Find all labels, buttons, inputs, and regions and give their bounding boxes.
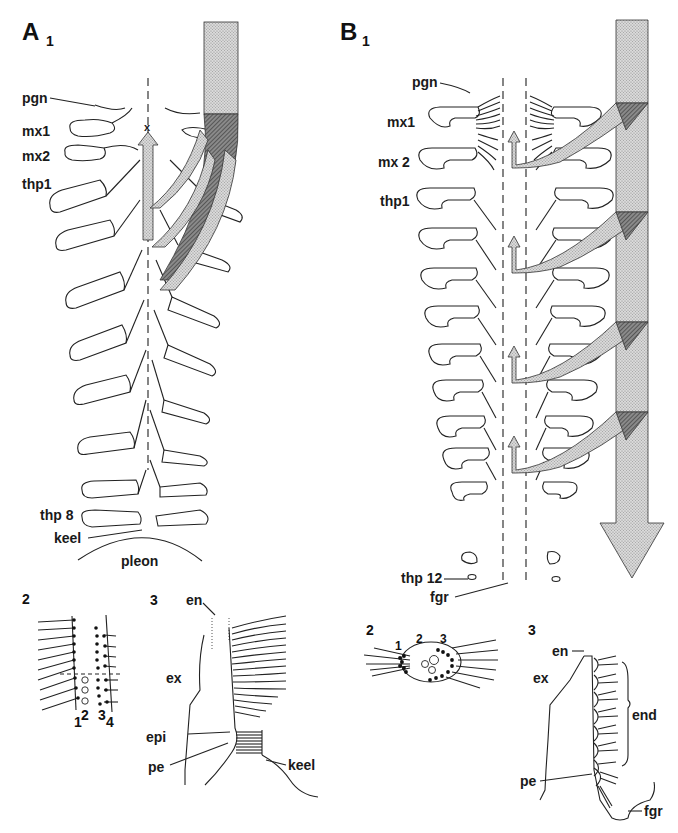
panel-b1: B 1 (340, 18, 664, 605)
a3-label-keel: keel (288, 757, 315, 773)
a3-epi-leader (188, 732, 230, 734)
panel-a3: 3 en (146, 592, 318, 797)
a2-dots (72, 618, 109, 706)
a3-ex-outline (185, 635, 204, 785)
b2-group-1: 1 (395, 639, 402, 653)
a1-label-pgn: pgn (22, 90, 48, 106)
panel-a2: 2 (22, 591, 122, 730)
b2-group-2: 2 (416, 632, 423, 646)
a2-setae-left (38, 615, 122, 712)
a1-label-thp1: thp1 (22, 176, 52, 192)
a1-label-mx1: mx1 (22, 123, 50, 139)
panel-a-letter: A (22, 18, 39, 45)
a1-label-thp8: thp 8 (40, 507, 74, 523)
panel-a-subscript: 1 (46, 33, 54, 49)
b1-label-thp1: thp1 (380, 193, 410, 209)
a1-up-arrow (138, 132, 158, 240)
b1-limbs-left (417, 107, 489, 580)
b3-end-bracket (622, 662, 630, 766)
b1-fgr-leader (455, 583, 508, 597)
a3-pe-leader (170, 743, 228, 765)
a3-label-epi: epi (146, 729, 166, 745)
a3-keel-comb (236, 730, 262, 755)
b2-number: 2 (366, 622, 374, 638)
a2-row-2: 2 (81, 707, 89, 723)
a3-number: 3 (150, 592, 158, 608)
b3-label-pe: pe (520, 773, 537, 789)
a1-x-marker: x (144, 121, 151, 133)
panel-a1: A 1 x (22, 18, 242, 569)
a1-mx2-lobe (65, 145, 106, 161)
b3-label-ex: ex (533, 670, 549, 686)
a1-mx1-stalk (112, 108, 132, 123)
b3-setae (598, 656, 618, 808)
figure-canvas: A 1 x (0, 0, 678, 833)
a1-keel-leader (88, 530, 142, 538)
b2-group-3: 3 (440, 632, 447, 646)
a3-en-leader (203, 603, 215, 615)
a2-row-3: 3 (98, 707, 106, 723)
a1-label-pleon: pleon (121, 553, 158, 569)
a3-setae (232, 616, 286, 717)
a3-label-ex: ex (166, 670, 182, 686)
a1-mx2-stalk (104, 145, 138, 150)
panel-b-subscript: 1 (362, 33, 370, 49)
a1-pgn-leader (50, 98, 95, 106)
a1-label-keel: keel (54, 530, 81, 546)
panel-b3: 3 en ex end pe f (520, 622, 663, 820)
b3-number: 3 (528, 622, 536, 638)
a3-label-en: en (186, 592, 202, 608)
b1-label-fgr: fgr (430, 589, 449, 605)
a3-label-pe: pe (148, 759, 165, 775)
panel-b-letter: B (340, 18, 357, 45)
a2-number: 2 (22, 591, 30, 607)
a1-mx1-lobe (70, 119, 115, 136)
a2-row-4: 4 (106, 714, 114, 730)
b3-label-en: en (552, 643, 568, 659)
panel-b2: 2 1 2 3 (364, 622, 498, 688)
b1-pgn-leader (440, 83, 470, 93)
a1-flow-column (204, 22, 238, 114)
a1-pgn-right (165, 108, 200, 114)
b1-label-mx1: mx1 (387, 114, 415, 130)
b3-pe-leader (540, 774, 592, 781)
b3-label-fgr: fgr (644, 803, 663, 819)
a1-pgn-left (95, 105, 125, 109)
a1-label-mx2: mx2 (22, 148, 50, 164)
b1-label-pgn: pgn (412, 74, 438, 90)
b3-body-outline (584, 656, 655, 820)
b1-label-thp12: thp 12 (401, 570, 442, 586)
a1-thoracopods-left (50, 180, 141, 527)
b3-label-end: end (632, 707, 657, 723)
b1-label-mx2: mx 2 (378, 154, 410, 170)
